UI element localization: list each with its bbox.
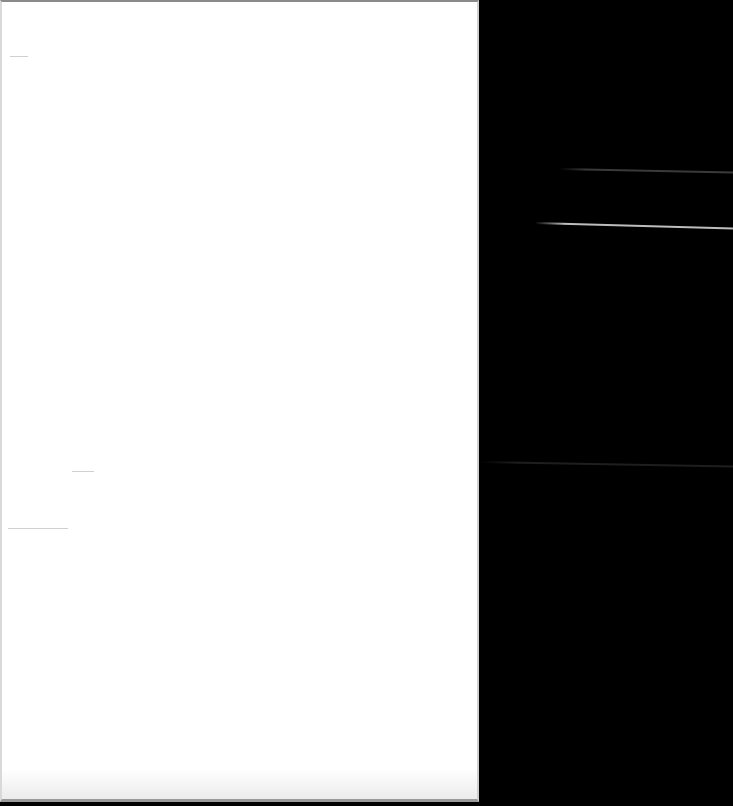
- light-streak: [535, 222, 733, 230]
- paper-mark: [8, 528, 68, 529]
- paper-mark: [10, 56, 28, 57]
- light-streak: [480, 461, 733, 467]
- blank-paper-sheet: [0, 0, 479, 802]
- paper-mark: [72, 471, 94, 472]
- light-streak: [560, 168, 733, 174]
- paper-bottom-shadow: [2, 769, 477, 799]
- photo-scene: [0, 0, 733, 806]
